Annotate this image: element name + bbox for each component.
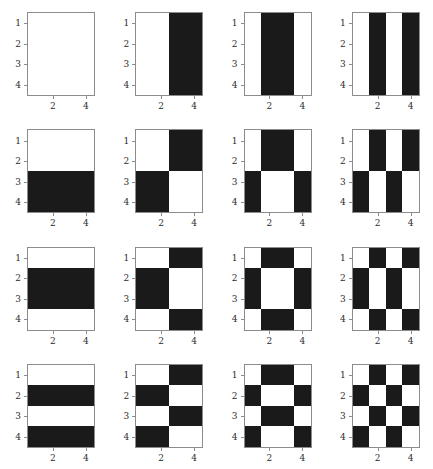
axes-area: 123424 [27,12,95,96]
heatmap-cell [353,385,370,406]
subplot-panel-r4-c3: 123424 [217,352,325,469]
heatmap-cell [169,365,186,386]
heatmap-cell [45,130,62,151]
heatmap-cell [45,426,62,447]
heatmap-cell [136,54,153,75]
heatmap-cell [261,151,278,172]
y-axis-tick [241,437,245,438]
heatmap-cell [45,385,62,406]
y-axis-tick [349,278,353,279]
heatmap-cell [61,406,78,427]
heatmap-cell [294,34,311,55]
x-axis-tick-label: 4 [191,454,197,463]
heatmap-cell [294,54,311,75]
heatmap-cell [402,406,419,427]
heatmap-cell [45,75,62,96]
heatmap-cell [78,75,95,96]
y-axis-tick-label: 1 [15,136,21,145]
y-axis-tick [24,396,28,397]
heatmap-cell [261,309,278,330]
heatmap-cell [278,426,295,447]
heatmap-cell [169,54,186,75]
x-axis-tick [411,212,412,216]
y-axis-tick-label: 2 [340,391,346,400]
heatmap-cell [369,248,386,269]
axes-area: 123424 [352,247,420,331]
y-axis-tick-label: 1 [232,253,238,262]
x-axis-tick-label: 4 [191,102,197,111]
heatmap-cell [386,151,403,172]
heatmap-cell [353,365,370,386]
heatmap-cell [278,248,295,269]
heatmap-cell [261,34,278,55]
x-axis-tick-label: 4 [83,454,89,463]
heatmap-cell [386,309,403,330]
heatmap-cell [169,248,186,269]
heatmap-cell [369,130,386,151]
y-axis-tick [241,182,245,183]
x-axis-tick [269,330,270,334]
heatmap-cell [369,406,386,427]
heatmap-cell [245,130,262,151]
heatmap-cell [78,385,95,406]
y-axis-tick [349,182,353,183]
heatmap-cell [136,151,153,172]
heatmap-cell [278,385,295,406]
heatmap-cell [45,268,62,289]
subplot-panel-r4-c2: 123424 [108,352,216,469]
heatmap-cell [386,13,403,34]
heatmap-cell [353,192,370,213]
heatmap-cell [136,385,153,406]
y-axis-tick [241,416,245,417]
heatmap-cell [278,151,295,172]
x-axis-tick [269,95,270,99]
heatmap-cell [186,54,203,75]
x-axis-tick [53,212,54,216]
y-axis-tick-label: 1 [15,19,21,28]
heatmap-cell [186,309,203,330]
x-axis-tick [53,95,54,99]
heatmap-cell [261,426,278,447]
y-axis-tick-label: 4 [15,80,21,89]
heatmap-cell [386,406,403,427]
y-axis-tick-label: 3 [340,294,346,303]
y-axis-tick [349,258,353,259]
y-axis-tick-label: 1 [340,19,346,28]
heatmap-cells [353,13,419,95]
heatmap-cell [294,248,311,269]
heatmap-cell [186,426,203,447]
x-axis-tick [86,447,87,451]
heatmap-cell [153,268,170,289]
axes-area: 123424 [135,12,203,96]
y-axis-tick-label: 1 [15,253,21,262]
heatmap-cell [28,75,45,96]
heatmap-cells [245,365,311,447]
heatmap-cell [153,406,170,427]
y-axis-tick [24,141,28,142]
y-axis-tick [132,396,136,397]
x-axis-tick-label: 2 [50,219,56,228]
y-axis-tick [24,319,28,320]
y-axis-tick [349,64,353,65]
heatmap-cells [245,13,311,95]
x-axis-tick-label: 2 [50,102,56,111]
y-axis-tick [349,202,353,203]
y-axis-tick-label: 1 [232,371,238,380]
heatmap-cell [78,192,95,213]
heatmap-cell [278,54,295,75]
heatmap-cell [245,192,262,213]
heatmap-cell [61,289,78,310]
heatmap-cells [28,365,94,447]
heatmap-cell [78,54,95,75]
heatmap-cell [278,171,295,192]
y-axis-tick [241,64,245,65]
heatmap-cell [169,268,186,289]
heatmap-cell [186,171,203,192]
heatmap-cell [402,75,419,96]
y-axis-tick [24,375,28,376]
y-axis-tick-label: 2 [340,157,346,166]
heatmap-cell [169,130,186,151]
x-axis-tick [269,212,270,216]
heatmap-cell [136,171,153,192]
axes-area: 123424 [27,129,95,213]
